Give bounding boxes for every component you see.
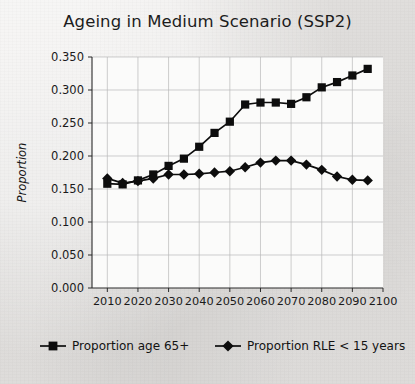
x-tick-label: 2020	[124, 295, 153, 308]
data-point-series-1	[318, 83, 326, 91]
x-tick-label: 2080	[307, 295, 336, 308]
legend-diamond-marker-icon	[222, 340, 233, 351]
data-point-series-1	[210, 129, 218, 137]
y-tick-label: 0.050	[51, 248, 84, 262]
data-point-series-1	[164, 162, 172, 170]
y-axis-title: Proportion	[15, 143, 29, 203]
data-point-series-1	[333, 78, 341, 86]
chart-canvas: 0.0000.0500.1000.1500.2000.2500.3000.350…	[0, 0, 415, 384]
x-tick-label: 2050	[215, 295, 244, 308]
y-tick-label: 0.300	[51, 83, 84, 97]
data-point-series-1	[226, 118, 234, 126]
x-tick-label: 2060	[246, 295, 275, 308]
data-point-series-1	[287, 100, 295, 108]
data-point-series-1	[256, 98, 264, 106]
y-tick-label: 0.350	[51, 50, 84, 64]
legend-square-marker-icon	[49, 342, 58, 351]
y-tick-label: 0.150	[51, 182, 84, 196]
y-tick-label: 0.200	[51, 149, 84, 163]
data-point-series-1	[180, 155, 188, 163]
x-tick-label: 2030	[154, 295, 183, 308]
x-tick-label: 2040	[185, 295, 214, 308]
plot-area-background	[92, 57, 383, 288]
legend-label-1: Proportion age 65+	[72, 339, 189, 353]
data-point-series-1	[302, 93, 310, 101]
data-point-series-1	[272, 98, 280, 106]
legend-label-2: Proportion RLE < 15 years	[247, 339, 405, 353]
x-tick-label: 2010	[93, 295, 122, 308]
data-point-series-1	[348, 71, 356, 79]
y-tick-label: 0.100	[51, 215, 84, 229]
chart-figure: 0.0000.0500.1000.1500.2000.2500.3000.350…	[0, 0, 415, 384]
x-tick-label: 2100	[369, 295, 398, 308]
data-point-series-1	[241, 100, 249, 108]
y-tick-label: 0.250	[51, 116, 84, 130]
x-tick-label: 2070	[277, 295, 306, 308]
y-tick-label: 0.000	[51, 281, 84, 295]
data-point-series-1	[364, 65, 372, 73]
x-tick-label: 2090	[338, 295, 367, 308]
data-point-series-1	[195, 143, 203, 151]
